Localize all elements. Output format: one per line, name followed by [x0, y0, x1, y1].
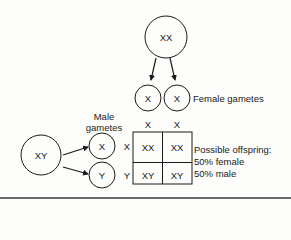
column-header-2: X [174, 119, 180, 130]
female-parent-genotype: XX [160, 32, 173, 43]
grid-cell-r1c2: XX [171, 142, 184, 153]
row-header-2: Y [124, 170, 130, 181]
female-gamete-1: X [145, 93, 151, 104]
male-gamete-2: Y [99, 170, 105, 181]
bottom-divider [0, 197, 291, 199]
grid-cell-r1c1: XX [142, 142, 155, 153]
offspring-male-pct: 50% male [194, 168, 236, 179]
female-gametes-label: Female gametes [193, 93, 264, 104]
grid-cell-r2c2: XY [171, 170, 184, 181]
arrow-to-female-gamete-1 [151, 58, 156, 80]
female-gamete-2: X [174, 93, 180, 104]
offspring-heading: Possible offspring: [194, 144, 271, 155]
arrow-to-male-gamete-1 [63, 147, 88, 155]
grid-cell-r2c1: XY [142, 170, 155, 181]
column-header-1: X [145, 119, 151, 130]
row-header-1: X [124, 141, 130, 152]
arrow-to-female-gamete-2 [170, 58, 175, 80]
arrow-to-male-gamete-2 [63, 167, 88, 174]
male-gametes-label-line1: Male [94, 111, 115, 122]
male-gamete-1: X [99, 141, 105, 152]
offspring-female-pct: 50% female [194, 156, 244, 167]
male-parent-genotype: XY [35, 150, 48, 161]
male-gametes-label-line2: gametes [86, 122, 122, 133]
